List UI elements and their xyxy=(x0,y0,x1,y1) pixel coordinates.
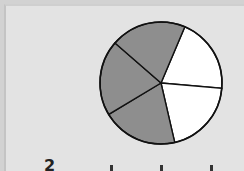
fraction-pie-chart xyxy=(0,0,244,171)
cut-off-text-row xyxy=(0,163,244,171)
